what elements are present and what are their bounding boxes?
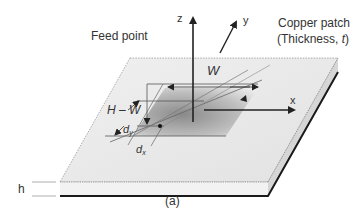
length-label: H – W [107,103,142,117]
y-axis [220,22,236,53]
substrate-height-label: h [18,182,25,196]
x-axis-label: x [290,94,296,106]
z-axis-label: z [177,12,183,24]
substrate-front-edge [60,182,268,196]
thickness-label: (Thickness, t) [277,32,349,46]
feed-point-label: Feed point [91,29,148,43]
feed-point-dot [158,124,162,128]
copper-patch-label: Copper patch [278,16,350,30]
microstrip-patch-diagram: Feed point Copper patch (Thickness, t) z… [0,0,360,220]
width-label: W [207,63,221,78]
y-axis-label: y [243,14,249,26]
figure-caption: (a) [165,194,180,208]
